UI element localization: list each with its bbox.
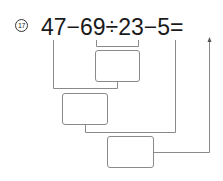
answer-box-step3[interactable] <box>107 136 154 168</box>
arrow-up-icon <box>208 37 212 42</box>
answer-box-step2[interactable] <box>62 93 108 125</box>
answer-box-step1[interactable] <box>95 50 140 82</box>
